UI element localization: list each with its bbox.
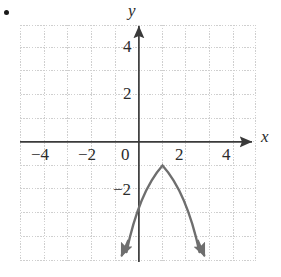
x-tick-label-2: 2 xyxy=(175,146,184,163)
x-tick-label-0: 0 xyxy=(121,146,130,163)
y-tick-label-neg2: −2 xyxy=(113,181,131,198)
y-axis-label: y xyxy=(128,2,136,19)
x-tick-label-neg4: −4 xyxy=(31,146,49,163)
graph-figure: y x −4 −2 0 2 4 4 2 −2 xyxy=(0,0,281,277)
parabola-curve xyxy=(127,166,200,253)
x-tick-label-4: 4 xyxy=(222,146,231,163)
y-tick-label-2: 2 xyxy=(123,85,132,102)
coordinate-plane xyxy=(0,0,281,277)
x-axis-label: x xyxy=(261,128,269,145)
y-tick-label-4: 4 xyxy=(123,38,132,55)
grid-lines xyxy=(21,25,256,261)
x-tick-label-neg2: −2 xyxy=(78,146,96,163)
